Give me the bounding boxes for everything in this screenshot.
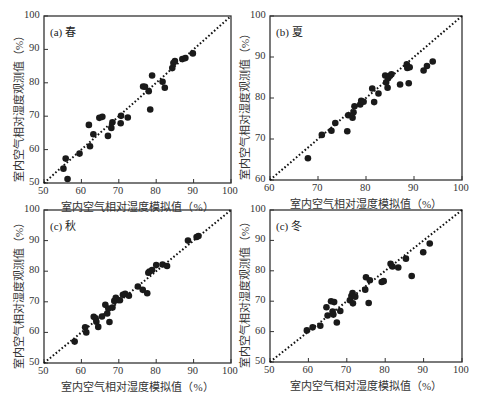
- y-tick-label: 50: [255, 355, 266, 366]
- y-tick-label: 90: [255, 233, 266, 244]
- data-point: [331, 299, 338, 306]
- x-tick-label: 70: [341, 364, 352, 375]
- data-point: [323, 304, 330, 311]
- x-tick-label: 80: [379, 364, 390, 375]
- x-tick-label: 60: [302, 364, 313, 375]
- data-point: [350, 300, 357, 307]
- y-tick-label: 100: [250, 203, 266, 214]
- x-tick-label: 100: [453, 364, 469, 375]
- data-point: [403, 255, 410, 262]
- data-point: [380, 278, 387, 285]
- y-tick-label: 70: [255, 294, 266, 305]
- y-tick-label: 60: [255, 325, 266, 336]
- data-point: [367, 277, 374, 284]
- data-point: [304, 327, 311, 334]
- data-point: [395, 264, 402, 271]
- data-point: [365, 300, 372, 307]
- data-point: [426, 240, 433, 247]
- x-axis-label: 室内空气相对湿度模拟值（%）: [270, 377, 462, 393]
- x-tick-label: 90: [418, 364, 429, 375]
- data-point: [362, 286, 369, 293]
- data-point: [408, 273, 415, 280]
- data-point: [309, 324, 316, 331]
- chart-panel-winter: 50607080901005060708090100(c) 冬室内空气相对湿度模…: [0, 0, 478, 403]
- y-tick-label: 80: [255, 264, 266, 275]
- y-axis-label: 室内空气相对湿度观测值（%）: [236, 216, 252, 368]
- panel-title: (c) 冬: [276, 217, 302, 233]
- data-point: [337, 308, 344, 315]
- data-point: [352, 293, 359, 300]
- data-point: [330, 311, 337, 318]
- data-point: [420, 249, 427, 256]
- data-point: [317, 323, 324, 330]
- x-tick-label: 50: [264, 364, 275, 375]
- data-point: [389, 263, 396, 270]
- data-point: [334, 319, 341, 326]
